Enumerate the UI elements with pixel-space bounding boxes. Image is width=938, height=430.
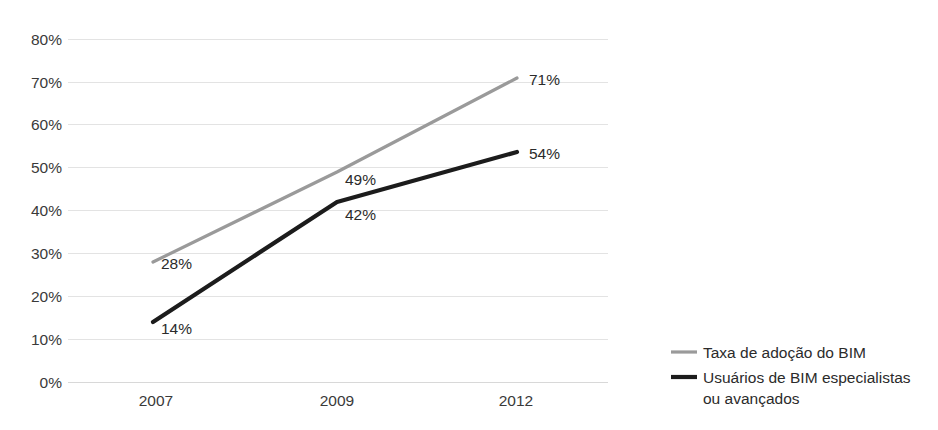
y-tick-label-20: 20% [31,288,62,305]
legend-label-usuarios-especialistas-line2: ou avançados [703,390,800,407]
data-label-gray-2009: 49% [345,171,376,188]
chart-canvas: 80% 70% 60% 50% 40% 30% 20% 10% 0% 2007 … [0,0,938,430]
y-tick-label-40: 40% [31,202,62,219]
x-axis-labels: 2007 2009 2012 [139,392,533,409]
data-label-black-2012: 54% [529,145,560,162]
data-label-gray-2007: 28% [161,255,192,272]
y-tick-label-60: 60% [31,116,62,133]
y-axis-labels: 80% 70% 60% 50% 40% 30% 20% 10% 0% [31,31,62,391]
y-tick-label-70: 70% [31,74,62,91]
data-label-black-2009: 42% [345,206,376,223]
x-tick-label-2009: 2009 [320,392,354,409]
legend-label-adocao-bim: Taxa de adoção do BIM [703,344,866,361]
line-chart: 80% 70% 60% 50% 40% 30% 20% 10% 0% 2007 … [0,0,938,430]
y-tick-label-50: 50% [31,159,62,176]
data-labels-adocao-bim: 28% 49% 71% [161,71,560,272]
y-tick-label-30: 30% [31,245,62,262]
x-tick-label-2012: 2012 [499,392,533,409]
series-line-adocao-bim [153,78,517,262]
y-tick-label-80: 80% [31,31,62,48]
legend: Taxa de adoção do BIM Usuários de BIM es… [671,344,911,407]
x-tick-label-2007: 2007 [139,392,173,409]
legend-label-usuarios-especialistas-line1: Usuários de BIM especialistas [703,369,911,386]
data-label-gray-2012: 71% [529,71,560,88]
y-tick-label-10: 10% [31,331,62,348]
gridlines [68,39,608,382]
y-tick-label-0: 0% [40,374,63,391]
data-label-black-2007: 14% [161,320,192,337]
